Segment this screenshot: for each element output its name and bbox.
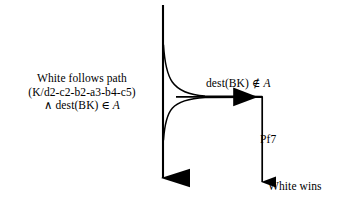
diagram-labels-layer: White follows path (K/d2-c2-b2-a3-b4-c5)… bbox=[0, 0, 343, 209]
left-condition-line-3: ∧ dest(BK) ∈ A bbox=[8, 99, 156, 113]
not-element-of-icon: ∉ bbox=[252, 76, 261, 90]
element-of-icon: ∈ bbox=[101, 98, 110, 112]
branch-condition-set-name: A bbox=[264, 77, 271, 89]
outcome-label: White wins bbox=[268, 180, 322, 194]
left-condition-line-3-prefix: ∧ dest(BK) bbox=[44, 99, 101, 111]
left-condition-line-1: White follows path bbox=[8, 72, 156, 86]
left-condition-label: White follows path (K/d2-c2-b2-a3-b4-c5)… bbox=[8, 72, 156, 113]
left-condition-set-name: A bbox=[113, 99, 120, 111]
move-label: Pf7 bbox=[260, 133, 276, 147]
branch-condition-label: dest(BK) ∉ A bbox=[206, 77, 271, 91]
diagram-canvas: White follows path (K/d2-c2-b2-a3-b4-c5)… bbox=[0, 0, 343, 209]
left-condition-line-2: (K/d2-c2-b2-a3-b4-c5) bbox=[8, 86, 156, 100]
branch-condition-prefix: dest(BK) bbox=[206, 77, 252, 89]
